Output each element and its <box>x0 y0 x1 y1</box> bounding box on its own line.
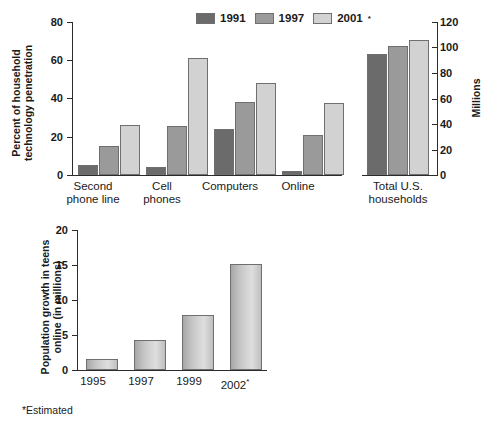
bar-second-phone-line-1997 <box>99 146 119 175</box>
figure-root: 1991 1997 2001* Percent of household tec… <box>0 0 490 429</box>
y-tick-right-100 <box>432 47 437 48</box>
bar-teens-online-1997 <box>134 340 166 370</box>
y-tick-label-right-120: 120 <box>440 17 466 28</box>
y-tick-label-right-20: 20 <box>440 145 466 156</box>
y-tick-right-80 <box>432 73 437 74</box>
bar-second-phone-line-1991 <box>78 165 98 175</box>
bar-online-1997 <box>303 135 323 175</box>
figure-footnote: *Estimated <box>22 404 73 416</box>
x-cat-cell-phones-line1: Cell <box>152 180 172 192</box>
y-tick-label-right-100: 100 <box>440 42 466 53</box>
bar-group-cell-phones <box>146 22 212 175</box>
x-cat-total-us-households: Total U.S. households <box>353 180 443 206</box>
y-tick-right-40 <box>432 124 437 125</box>
y-tick-right-0 <box>432 175 437 176</box>
bar-group-second-phone-line <box>78 22 144 175</box>
x-cat-cell-phones-line2: phones <box>143 193 181 205</box>
x-axis-total-households <box>362 175 434 176</box>
y-axis-title-right: Millions <box>470 53 482 143</box>
y-tick-label-bottom-15: 15 <box>44 260 68 271</box>
bar-total-households-1997 <box>388 46 408 175</box>
y-tick-right-120 <box>432 22 437 23</box>
x-cat-online-line1: Online <box>281 180 314 192</box>
y-tick-label-right-80: 80 <box>440 68 466 79</box>
bar-cell-phones-1991 <box>146 167 166 175</box>
bar-teens-online-1999 <box>182 315 214 370</box>
x-cat-total-us-households-line1: Total U.S. <box>373 180 423 192</box>
bar-cell-phones-1997 <box>167 126 187 175</box>
y-tick-label-left-60: 60 <box>38 55 63 66</box>
x-cat-online: Online <box>253 180 343 193</box>
x-cat-total-us-households-line2: households <box>369 193 428 205</box>
x-cat-2002-asterisk: * <box>246 377 249 386</box>
x-cat-2002: 2002* <box>198 375 272 392</box>
y-tick-label-bottom-5: 5 <box>44 330 68 341</box>
y-tick-right-20 <box>432 150 437 151</box>
bar-total-households-1991 <box>367 54 387 175</box>
y-tick-left-0 <box>67 175 72 176</box>
plot-area-total-households <box>367 22 429 175</box>
bar-online-1991 <box>282 171 302 175</box>
bar-teens-online-1995 <box>86 359 118 370</box>
y-tick-label-right-0: 0 <box>440 170 466 181</box>
chart-household-technology-penetration: 1991 1997 2001* Percent of household tec… <box>0 0 490 205</box>
x-cat-second-phone-line-line2: phone line <box>66 193 119 205</box>
x-cat-second-phone-line-line1: Second <box>73 180 112 192</box>
bar-teens-online-2002 <box>230 264 262 370</box>
y-tick-label-bottom-10: 10 <box>44 295 68 306</box>
y-tick-label-right-40: 40 <box>440 119 466 130</box>
y-tick-label-right-60: 60 <box>440 94 466 105</box>
y-tick-label-bottom-20: 20 <box>44 225 68 236</box>
y-axis-title-left-line2: technology penetration <box>22 45 34 161</box>
y-axis-title-left: Percent of household technology penetrat… <box>10 23 34 183</box>
y-axis-title-left-line1: Percent of household <box>10 49 22 156</box>
y-tick-label-left-80: 80 <box>38 17 63 28</box>
bar-group-computers <box>214 22 280 175</box>
y-tick-right-60 <box>432 99 437 100</box>
bar-cell-phones-2001 <box>188 58 208 175</box>
y-tick-bottom-0 <box>72 370 77 371</box>
plot-area-main <box>72 22 342 175</box>
bar-second-phone-line-2001 <box>120 125 140 175</box>
bar-group-online <box>282 22 348 175</box>
y-axis-right <box>437 22 438 176</box>
bar-computers-1991 <box>214 129 234 175</box>
y-tick-label-left-40: 40 <box>38 93 63 104</box>
x-axis-main <box>72 175 342 176</box>
chart-teens-online-growth: Population growth in teens online (in mi… <box>0 205 490 429</box>
plot-area-bottom <box>77 230 262 370</box>
bar-computers-2001 <box>256 83 276 175</box>
x-cat-computers-line1: Computers <box>202 180 258 192</box>
bar-online-2001 <box>324 103 344 175</box>
x-cat-2002-year: 2002 <box>221 379 247 391</box>
x-axis-bottom <box>77 370 267 371</box>
bar-total-households-2001 <box>409 40 429 175</box>
y-tick-label-left-20: 20 <box>38 132 63 143</box>
bar-computers-1997 <box>235 102 255 175</box>
